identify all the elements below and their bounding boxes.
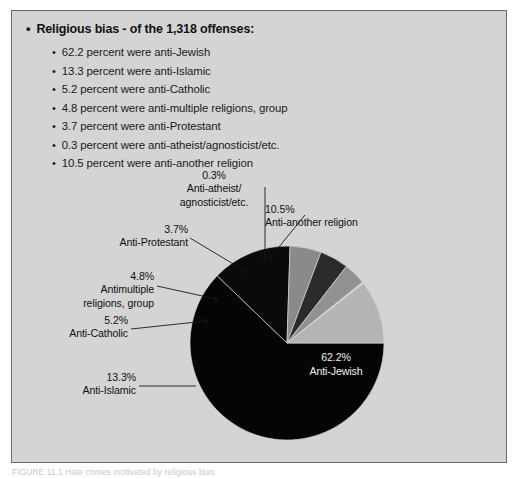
leader-dot-catholic bbox=[204, 319, 209, 324]
figure-panel: • Religious bias - of the 1,318 offenses… bbox=[11, 10, 507, 463]
callout-islamic: 13.3% Anti-Islamic bbox=[26, 371, 136, 398]
leader-dot-atheist bbox=[263, 258, 268, 263]
leader-line-protestant bbox=[190, 238, 245, 271]
leader-dot-protestant bbox=[243, 269, 248, 274]
pie-chart: 0.3% Anti-atheist/ agnosticist/etc. 10.5… bbox=[12, 11, 506, 462]
callout-antimultiple: 4.8% Antimultiple religions, group bbox=[36, 270, 154, 310]
callout-another-religion: 10.5% Anti-another religion bbox=[265, 203, 415, 230]
slice-label-jewish: 62.2% Anti-Jewish bbox=[284, 351, 388, 379]
callout-atheist: 0.3% Anti-atheist/ agnosticist/etc. bbox=[160, 169, 268, 209]
pie-slice-group bbox=[190, 246, 384, 440]
leader-dot-another bbox=[268, 256, 273, 261]
callout-catholic: 5.2% Anti-Catholic bbox=[26, 314, 128, 341]
callout-protestant: 3.7% Anti-Protestant bbox=[68, 223, 188, 250]
leader-dot-multiple bbox=[214, 297, 219, 302]
figure-caption: FIGURE 11.1 Hate crimes motivated by rel… bbox=[12, 467, 507, 477]
